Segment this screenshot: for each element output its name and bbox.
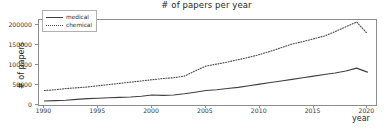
legend-label-chemical: chemical	[66, 21, 92, 29]
chart-legend: medical chemical	[42, 10, 97, 32]
chart-title: # of papers per year	[38, 0, 375, 10]
series-lines	[39, 20, 376, 105]
y-tick-label: 0	[28, 101, 32, 108]
chart-figure: # of papers per year 0500001000001500002…	[0, 0, 390, 133]
x-axis-label: year	[352, 114, 370, 123]
legend-label-medical: medical	[66, 13, 89, 21]
x-tick-label: 2005	[197, 107, 213, 114]
y-axis-label: # of papers	[17, 21, 26, 111]
x-tick-label: 2010	[251, 107, 267, 114]
legend-item-medical: medical	[46, 13, 92, 21]
legend-swatch-dotted-icon	[46, 22, 63, 28]
legend-item-chemical: chemical	[46, 21, 92, 29]
x-tick-label: 1990	[36, 107, 52, 114]
x-tick-label: 1995	[89, 107, 105, 114]
series-line-chemical	[44, 22, 367, 91]
legend-swatch-solid-icon	[46, 14, 63, 20]
plot-area	[38, 19, 377, 106]
x-tick-label: 2015	[305, 107, 321, 114]
x-tick-label: 2000	[143, 107, 159, 114]
series-line-medical	[44, 68, 367, 101]
x-tick-label: 2020	[359, 107, 375, 114]
